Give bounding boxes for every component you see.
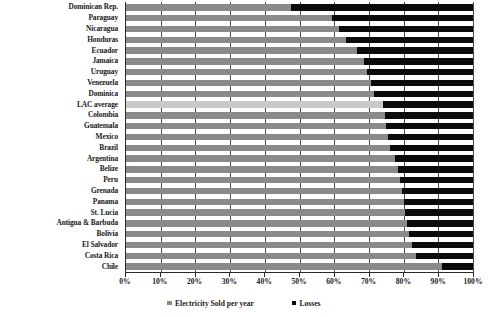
- bar-row: [126, 253, 473, 260]
- bar-segment-losses: [405, 209, 473, 216]
- gridline: [473, 2, 474, 272]
- bar-row: [126, 155, 473, 162]
- x-axis-tick-label: 70%: [361, 277, 376, 286]
- category-label: St. Lucia: [91, 208, 118, 218]
- bar-row: [126, 220, 473, 227]
- bar-segment-losses: [385, 112, 473, 119]
- bar-segment-sold: [126, 242, 412, 249]
- bar-row: [126, 242, 473, 249]
- category-label: Belize: [100, 164, 118, 174]
- bar-segment-losses: [386, 123, 473, 130]
- bar-segment-sold: [126, 166, 398, 173]
- bar-segment-losses: [374, 91, 473, 98]
- bar-segment-losses: [388, 134, 473, 141]
- bar-segment-sold: [126, 209, 405, 216]
- legend-label-losses: Losses: [299, 299, 320, 308]
- bar-segment-losses: [390, 145, 473, 152]
- bar-segment-sold: [126, 47, 357, 54]
- category-label: Venezuela: [87, 78, 118, 88]
- bar-row: [126, 123, 473, 130]
- legend-swatch-losses-icon: [292, 301, 297, 306]
- x-axis-tick-label: 80%: [396, 277, 411, 286]
- legend-label-sold: Electricity Sold per year: [175, 299, 254, 308]
- bar-segment-sold: [126, 123, 386, 130]
- legend-item-sold: Electricity Sold per year: [167, 299, 253, 308]
- category-label: LAC average: [77, 100, 118, 110]
- bar-row: [126, 80, 473, 87]
- category-label: El Salvador: [82, 240, 118, 250]
- legend-swatch-sold-icon: [167, 301, 172, 306]
- category-label: Antigua & Barbuda: [56, 218, 118, 228]
- bar-segment-sold: [126, 37, 346, 44]
- bar-row: [126, 231, 473, 238]
- bar-segment-sold: [126, 91, 374, 98]
- stacked-bar-chart: Dominican Rep.ParaguayNicaraguaHondurasE…: [0, 0, 488, 317]
- x-axis-tick-labels: 0%10%20%30%40%50%60%70%80%90%100%: [0, 277, 488, 291]
- bar-row: [126, 112, 473, 119]
- x-axis-tick-label: 20%: [187, 277, 202, 286]
- bar-rows: [126, 2, 473, 272]
- bar-row: [126, 166, 473, 173]
- bar-row: [126, 4, 473, 11]
- bar-segment-sold: [126, 177, 400, 184]
- bar-segment-losses: [442, 263, 473, 270]
- bar-segment-losses: [383, 101, 473, 108]
- x-axis-tick-label: 30%: [222, 277, 237, 286]
- bar-segment-losses: [404, 199, 473, 206]
- legend-item-losses: Losses: [292, 299, 321, 308]
- bar-row: [126, 199, 473, 206]
- bar-segment-losses: [367, 69, 473, 76]
- bar-segment-sold: [126, 26, 339, 33]
- bar-segment-losses: [346, 37, 473, 44]
- bar-segment-sold: [126, 58, 364, 65]
- category-label: Panama: [93, 197, 118, 207]
- category-label: Nicaragua: [86, 24, 118, 34]
- x-axis-tick-label: 0%: [119, 277, 130, 286]
- bar-segment-sold: [126, 188, 402, 195]
- bar-segment-sold: [126, 199, 404, 206]
- bar-segment-sold: [126, 145, 390, 152]
- category-label: Costa Rica: [85, 251, 118, 261]
- bar-row: [126, 145, 473, 152]
- category-label: Grenada: [91, 186, 118, 196]
- bar-segment-sold: [126, 231, 409, 238]
- x-axis-tick-label: 10%: [152, 277, 167, 286]
- category-label: Chile: [102, 262, 118, 272]
- category-label: Peru: [103, 175, 118, 185]
- category-label: Dominica: [88, 89, 118, 99]
- bar-row: [126, 177, 473, 184]
- bar-row: [126, 209, 473, 216]
- category-label: Jamaica: [92, 56, 118, 66]
- bar-segment-losses: [416, 253, 473, 260]
- x-axis-tick-label: 50%: [291, 277, 306, 286]
- category-label: Uruguay: [91, 67, 118, 77]
- category-label: Guatemala: [84, 121, 118, 131]
- bar-segment-losses: [398, 166, 473, 173]
- bar-segment-sold: [126, 253, 416, 260]
- bar-segment-sold: [126, 155, 395, 162]
- category-label: Paraguay: [88, 13, 118, 23]
- bar-segment-sold: [126, 80, 371, 87]
- bar-segment-losses: [395, 155, 473, 162]
- x-axis-tick-label: 40%: [257, 277, 272, 286]
- x-axis-tick-label: 100%: [464, 277, 483, 286]
- x-axis-tick-label: 60%: [326, 277, 341, 286]
- category-label: Mexico: [96, 132, 118, 142]
- bar-row: [126, 263, 473, 270]
- plot-area: [125, 2, 473, 272]
- x-axis-tick-label: 90%: [431, 277, 446, 286]
- bar-segment-losses: [407, 220, 473, 227]
- category-label: Ecuador: [92, 46, 118, 56]
- category-label: Dominican Rep.: [68, 2, 118, 12]
- bar-segment-sold: [126, 15, 332, 22]
- bar-segment-sold: [126, 220, 407, 227]
- y-axis-category-labels: Dominican Rep.ParaguayNicaraguaHondurasE…: [0, 2, 122, 272]
- bar-segment-sold: [126, 4, 291, 11]
- bar-segment-sold: [126, 134, 388, 141]
- category-label: Colombia: [88, 110, 118, 120]
- bar-row: [126, 58, 473, 65]
- bar-row: [126, 91, 473, 98]
- bar-segment-sold: [126, 69, 367, 76]
- bar-row: [126, 15, 473, 22]
- bar-row: [126, 188, 473, 195]
